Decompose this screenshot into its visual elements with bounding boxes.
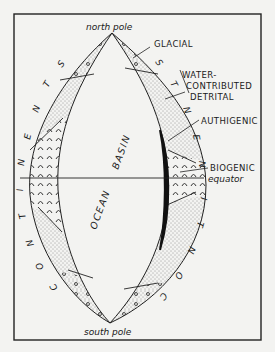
svg-text:S: S	[55, 58, 67, 69]
ocean-basin-diagram: north pole south pole equator GLACIAL WA…	[0, 0, 275, 352]
svg-text:E: E	[22, 132, 33, 140]
svg-text:T: T	[168, 79, 180, 90]
right-glacial-north	[0, 0, 275, 72]
svg-text:O: O	[34, 261, 46, 272]
svg-text:N: N	[30, 104, 42, 114]
svg-text:S: S	[153, 57, 165, 68]
north-pole-label: north pole	[86, 22, 133, 32]
right-glacial-south	[0, 280, 275, 352]
legend-biogenic: BIOGENIC	[210, 163, 255, 173]
equator-label: equator	[208, 174, 245, 184]
basin-word-ocean: OCEAN	[88, 188, 112, 230]
svg-text:N: N	[24, 238, 36, 248]
basin-word-basin: BASIN	[110, 133, 133, 171]
svg-text:N: N	[197, 161, 207, 168]
svg-text:T: T	[16, 211, 27, 220]
svg-text:I: I	[15, 188, 25, 192]
legend-glacial: GLACIAL	[154, 39, 193, 49]
legend-water-line2: CONTRIBUTED	[186, 81, 252, 91]
svg-text:C: C	[47, 281, 59, 292]
svg-text:N: N	[16, 158, 27, 166]
legend-water-line3: DETRITAL	[190, 92, 234, 102]
svg-text:T: T	[41, 78, 53, 89]
svg-text:E: E	[191, 134, 202, 142]
svg-text:C: C	[157, 291, 169, 303]
south-pole-label: south pole	[84, 327, 132, 337]
legend-water-line1: WATER-	[182, 70, 217, 80]
legend-authigenic: AUTHIGENIC	[201, 116, 258, 126]
